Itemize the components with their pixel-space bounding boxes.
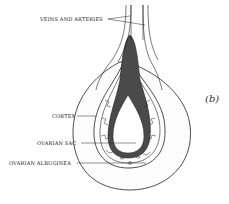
label-ovarian-albuginea: OVARIAN ALBUGINEA [9,160,71,166]
ovary-diagram [0,0,229,204]
label-ovarian-sac: OVARIAN SAC [37,140,76,146]
panel-label: (b) [205,93,219,104]
label-veins-and-arteries: VEINS AND ARTERIES [40,16,103,22]
label-cortex: CORTEX [52,113,75,119]
